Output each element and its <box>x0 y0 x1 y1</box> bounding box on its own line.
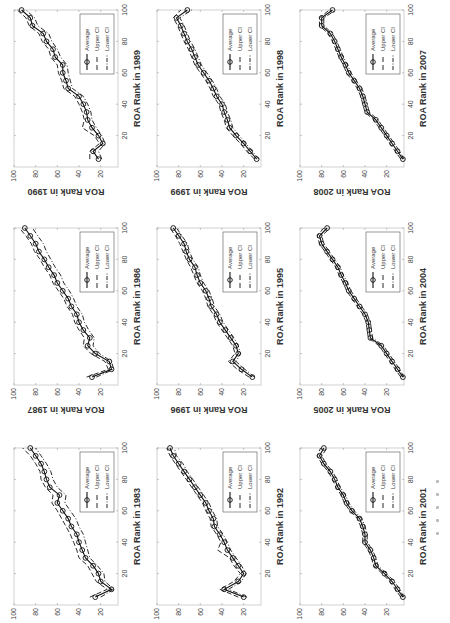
y-tick-label: 80 <box>175 170 182 178</box>
x-tick-label: 60 <box>121 69 128 77</box>
chart-panel: 2040608010020406080100ROA Rank in 2001Av… <box>286 418 430 623</box>
x-tick-label: 20 <box>264 350 271 358</box>
chart-svg: 2040608010020406080100ROA Rank in 2004RO… <box>286 198 426 403</box>
y-tick-label: 20 <box>383 170 390 178</box>
legend-label: Upper CI <box>380 465 386 489</box>
x-tick-label: 20 <box>407 570 414 578</box>
y-tick-label: 60 <box>340 388 347 396</box>
legend-label: Lower CI <box>390 245 396 269</box>
x-tick-label: 60 <box>264 69 271 77</box>
chart-panel: 2040608010020406080100ROA Rank in 1995RO… <box>143 198 287 403</box>
legend-label: Lower CI <box>247 465 253 489</box>
y-tick-label: 60 <box>197 608 204 616</box>
y-tick-label: 40 <box>361 388 368 396</box>
legend-label: Average <box>370 246 376 269</box>
legend: AverageUpper CILower CI <box>223 232 257 292</box>
x-axis-label: ROA Rank in 1986 <box>132 268 142 345</box>
x-axis-label: ROA Rank in 1989 <box>132 50 142 127</box>
chart-panel: 2040608010020406080100ROA Rank in 2004RO… <box>286 198 430 403</box>
x-tick-label: 20 <box>264 132 271 140</box>
x-tick-label: 100 <box>264 4 271 16</box>
y-tick-label: 100 <box>10 608 17 620</box>
x-axis-label: ROA Rank in 1995 <box>275 268 285 345</box>
y-tick-label: 100 <box>296 608 303 620</box>
x-axis-label: ROA Rank in 2001 <box>418 488 428 565</box>
legend-label: Average <box>227 246 233 269</box>
legend: AverageUpper CILower CI <box>80 452 114 512</box>
chart-svg: 2040608010020406080100ROA Rank in 1986RO… <box>0 198 140 403</box>
y-tick-label: 40 <box>361 170 368 178</box>
chart-panel: 2040608010020406080100ROA Rank in 2007RO… <box>286 0 430 185</box>
x-tick-label: 80 <box>121 37 128 45</box>
x-tick-label: 80 <box>407 37 414 45</box>
x-tick-label: 80 <box>264 37 271 45</box>
legend-label: Upper CI <box>237 465 243 489</box>
x-tick-label: 80 <box>121 255 128 263</box>
y-tick-label: 80 <box>175 608 182 616</box>
x-tick-label: 60 <box>407 287 414 295</box>
x-tick-label: 20 <box>121 132 128 140</box>
y-tick-label: 20 <box>97 608 104 616</box>
y-tick-label: 40 <box>75 388 82 396</box>
y-tick-label: 40 <box>75 170 82 178</box>
chart-svg: 2040608010020406080100ROA Rank in 2007RO… <box>286 0 426 185</box>
chart-panel: 2040608010020406080100ROA Rank in 1989RO… <box>0 0 144 185</box>
legend-label: Upper CI <box>94 245 100 269</box>
y-tick-label: 100 <box>10 170 17 182</box>
y-tick-label: 80 <box>318 170 325 178</box>
y-tick-label: 60 <box>340 170 347 178</box>
rotated-figure: 2040608010020406080100ROA Rank in 1983Av… <box>0 0 450 623</box>
legend-label: Lower CI <box>104 465 110 489</box>
y-tick-label: 80 <box>318 388 325 396</box>
x-tick-label: 20 <box>407 350 414 358</box>
legend-label: Average <box>227 466 233 489</box>
legend: AverageUpper CILower CI <box>223 14 257 74</box>
legend: AverageUpper CILower CI <box>366 452 400 512</box>
x-tick-label: 100 <box>264 222 271 234</box>
x-tick-label: 20 <box>264 570 271 578</box>
chart-svg: 2040608010020406080100ROA Rank in 1995RO… <box>143 198 283 403</box>
y-tick-label: 60 <box>54 388 61 396</box>
x-tick-label: 80 <box>264 255 271 263</box>
y-tick-label: 40 <box>75 608 82 616</box>
x-tick-label: 80 <box>407 475 414 483</box>
x-tick-label: 40 <box>407 100 414 108</box>
x-tick-label: 80 <box>407 255 414 263</box>
y-tick-label: 100 <box>153 608 160 620</box>
y-tick-label: 100 <box>153 170 160 182</box>
legend-label: Average <box>370 28 376 51</box>
chart-panel: 2040608010020406080100ROA Rank in 1998RO… <box>143 0 287 185</box>
x-tick-label: 60 <box>121 507 128 515</box>
chart-svg: 2040608010020406080100ROA Rank in 1983Av… <box>0 418 140 623</box>
x-axis-label: ROA Rank in 1983 <box>132 488 142 565</box>
y-tick-label: 40 <box>361 608 368 616</box>
legend-label: Lower CI <box>247 27 253 51</box>
legend: AverageUpper CILower CI <box>80 232 114 292</box>
legend: AverageUpper CILower CI <box>366 232 400 292</box>
y-tick-label: 40 <box>218 170 225 178</box>
y-axis-label: ROA Rank in 1987 <box>27 405 104 415</box>
y-tick-label: 20 <box>240 608 247 616</box>
x-tick-label: 100 <box>407 4 414 16</box>
legend-label: Average <box>84 466 90 489</box>
legend: AverageUpper CILower CI <box>80 14 114 74</box>
legend-label: Average <box>370 466 376 489</box>
y-tick-label: 40 <box>218 388 225 396</box>
legend-label: Upper CI <box>380 27 386 51</box>
x-tick-label: 60 <box>264 287 271 295</box>
x-tick-label: 100 <box>121 222 128 234</box>
x-axis-label: ROA Rank in 1992 <box>275 488 285 565</box>
x-tick-label: 40 <box>407 538 414 546</box>
legend-label: Upper CI <box>237 245 243 269</box>
x-tick-label: 100 <box>121 4 128 16</box>
legend-label: Upper CI <box>94 465 100 489</box>
x-tick-label: 100 <box>407 222 414 234</box>
x-tick-label: 60 <box>264 507 271 515</box>
y-tick-label: 60 <box>54 170 61 178</box>
x-tick-label: 40 <box>264 318 271 326</box>
legend: AverageUpper CILower CI <box>366 14 400 74</box>
legend-label: Lower CI <box>390 465 396 489</box>
y-tick-label: 40 <box>218 608 225 616</box>
x-tick-label: 40 <box>264 100 271 108</box>
y-tick-label: 60 <box>197 170 204 178</box>
